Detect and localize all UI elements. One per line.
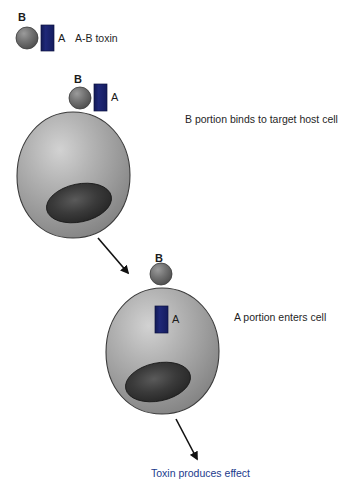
step2-a-rectangle-icon <box>155 306 168 333</box>
legend-a-rectangle-icon <box>41 25 54 51</box>
legend-toxin-icon <box>16 25 54 51</box>
step1-a-rectangle-icon <box>94 84 107 111</box>
step1-caption: B portion binds to target host cell <box>185 114 338 125</box>
outcome-caption: Toxin produces effect <box>151 468 250 479</box>
legend-b-label: B <box>18 12 26 23</box>
arrow-step1-to-step2-icon <box>98 238 128 273</box>
diagram-canvas <box>0 0 349 503</box>
step1-a-label: A <box>111 92 118 103</box>
arrow-step2-to-effect-icon <box>176 419 197 459</box>
step2-b-label: B <box>155 253 163 264</box>
step2-b-sphere-icon <box>150 263 172 285</box>
ab-toxin-diagram: B A A-B toxin B A B portion binds to tar… <box>0 0 349 503</box>
legend-b-sphere-icon <box>16 27 38 49</box>
step2-caption: A portion enters cell <box>234 312 326 323</box>
legend-a-label: A <box>58 33 65 44</box>
legend-title: A-B toxin <box>75 33 118 44</box>
step-binding-figure <box>17 84 130 238</box>
step1-b-label: B <box>74 74 82 85</box>
step2-a-label: A <box>172 314 179 325</box>
step-entry-figure <box>106 263 219 414</box>
step1-b-sphere-icon <box>69 87 91 109</box>
